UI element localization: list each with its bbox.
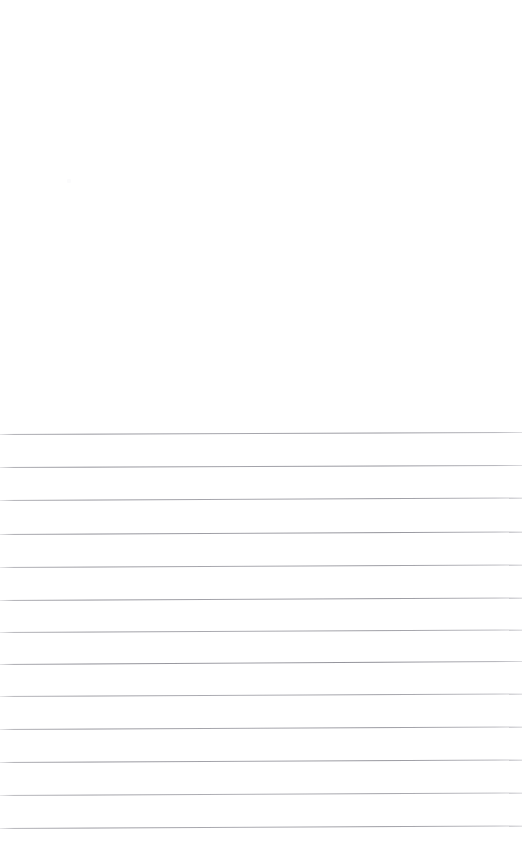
writing-row-8 [0,665,522,697]
writing-row-6 [0,601,522,632]
writing-row-9 [0,697,522,729]
writing-row-7 [0,633,522,664]
scanned-page [0,0,522,866]
writing-row-10 [0,730,522,762]
writing-row-11 [0,763,522,795]
ruled-lines-area [0,0,522,866]
writing-row-5 [0,568,522,600]
writing-row-12 [0,796,522,828]
writing-row-4 [0,535,522,567]
scan-speck-artifact [67,179,71,183]
writing-row-2 [0,468,522,501]
writing-row-1 [0,435,522,467]
writing-row-3 [0,501,522,534]
